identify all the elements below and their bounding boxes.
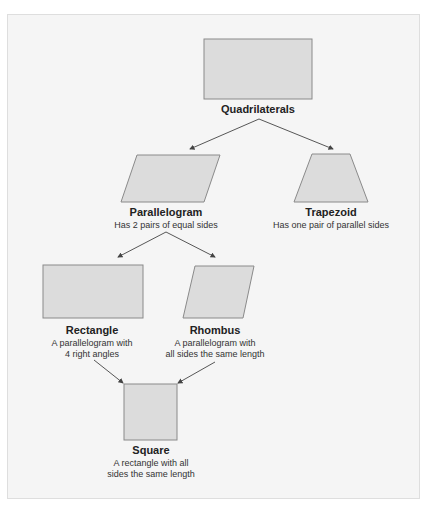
square-shape: [124, 384, 177, 440]
node-title: Rhombus: [165, 324, 264, 337]
arrow-parallelogram-rectangle: [118, 232, 166, 257]
arrow-rhombus-square: [178, 362, 215, 383]
node-title: Trapezoid: [273, 206, 389, 219]
arrow-quadrilaterals-trapezoid: [259, 119, 333, 149]
arrow-quadrilaterals-parallelogram: [190, 119, 259, 149]
node-title: Rectangle: [51, 324, 132, 337]
node-desc: A rectangle with all: [107, 458, 195, 469]
node-rectangle: Rectangle A parallelogram with 4 right a…: [51, 324, 132, 360]
rhombus-shape: [183, 266, 254, 318]
node-quadrilaterals: Quadrilaterals: [221, 103, 295, 116]
diagram-canvas: [0, 0, 427, 507]
rectangle-shape: [43, 265, 143, 318]
arrow-rectangle-square: [94, 360, 123, 383]
node-title: Square: [107, 444, 195, 457]
node-desc: Has one pair of parallel sides: [273, 220, 389, 231]
arrow-parallelogram-rhombus: [166, 232, 215, 257]
node-square: Square A rectangle with all sides the sa…: [107, 444, 195, 480]
node-trapezoid: Trapezoid Has one pair of parallel sides: [273, 206, 389, 231]
node-title: Quadrilaterals: [221, 103, 295, 116]
node-desc: A parallelogram with: [51, 338, 132, 349]
node-rhombus: Rhombus A parallelogram with all sides t…: [165, 324, 264, 360]
node-parallelogram: Parallelogram Has 2 pairs of equal sides: [114, 206, 218, 231]
node-desc: 4 right angles: [51, 349, 132, 360]
parallelogram-shape: [121, 155, 220, 202]
node-desc: sides the same length: [107, 469, 195, 480]
node-title: Parallelogram: [114, 206, 218, 219]
node-desc: Has 2 pairs of equal sides: [114, 220, 218, 231]
trapezoid-shape: [294, 154, 368, 202]
quadrilaterals-shape: [204, 39, 312, 99]
node-desc: all sides the same length: [165, 349, 264, 360]
node-desc: A parallelogram with: [165, 338, 264, 349]
